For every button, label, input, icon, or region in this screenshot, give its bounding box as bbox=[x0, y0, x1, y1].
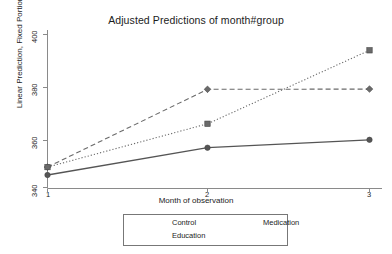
data-point-circle bbox=[367, 137, 372, 142]
axis-lines bbox=[43, 30, 382, 193]
data-series-layer bbox=[44, 48, 373, 178]
data-point-square bbox=[367, 48, 372, 53]
legend-item-medication[interactable]: Medication bbox=[263, 218, 299, 227]
series-control bbox=[45, 137, 372, 178]
chart-figure: Adjusted Predictions of month#group Line… bbox=[0, 0, 392, 254]
data-point-diamond bbox=[204, 86, 211, 93]
data-point-square bbox=[45, 164, 50, 169]
series-education bbox=[45, 48, 372, 170]
data-point-circle bbox=[205, 145, 210, 150]
data-point-square bbox=[205, 121, 210, 126]
series-line bbox=[48, 89, 370, 167]
legend-item-education[interactable]: Education bbox=[172, 231, 205, 240]
data-point-diamond bbox=[366, 86, 373, 93]
series-medication bbox=[44, 86, 373, 171]
legend-item-control[interactable]: Control bbox=[172, 218, 196, 227]
data-point-circle bbox=[45, 172, 50, 177]
